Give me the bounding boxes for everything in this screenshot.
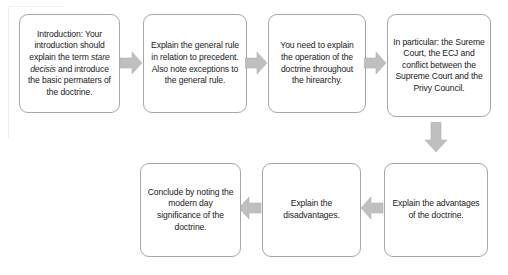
disadvantages-box[interactable]: Explain the disadvantages.: [262, 163, 361, 257]
operation-of-doctrine-box[interactable]: You need to explain the operation of the…: [268, 14, 366, 113]
disadvantages-box-label: Explain the disadvantages.: [268, 198, 355, 221]
arrow-left-icon: [239, 196, 262, 221]
courts-conflict-box-label: In particular: the Sureme Court, the ECJ…: [393, 37, 485, 95]
arrow-right-icon: [364, 51, 387, 75]
conclusion-box[interactable]: Conclude by noting the modern day signif…: [140, 163, 241, 257]
conclusion-box-label: Conclude by noting the modern day signif…: [146, 187, 235, 233]
advantages-box-label: Explain the advantages of the doctrine.: [390, 198, 482, 221]
advantages-box[interactable]: Explain the advantages of the doctrine.: [384, 163, 488, 257]
flowchart-canvas: Introduction: Your introduction should e…: [0, 0, 508, 275]
courts-conflict-box[interactable]: In particular: the Sureme Court, the ECJ…: [387, 14, 491, 117]
general-rule-box[interactable]: Explain the general rule in relation to …: [143, 14, 247, 113]
introduction-box-label: Introduction: Your introduction should e…: [25, 29, 114, 99]
arrow-right-icon: [120, 51, 143, 75]
arrow-right-icon: [245, 51, 268, 75]
frame-edge-top: [8, 6, 64, 7]
arrow-left-icon: [361, 196, 384, 221]
general-rule-box-label: Explain the general rule in relation to …: [149, 40, 241, 86]
operation-of-doctrine-box-label: You need to explain the operation of the…: [274, 40, 360, 86]
introduction-box[interactable]: Introduction: Your introduction should e…: [19, 14, 120, 113]
arrow-down-icon: [424, 122, 448, 154]
frame-edge-left: [8, 6, 9, 138]
